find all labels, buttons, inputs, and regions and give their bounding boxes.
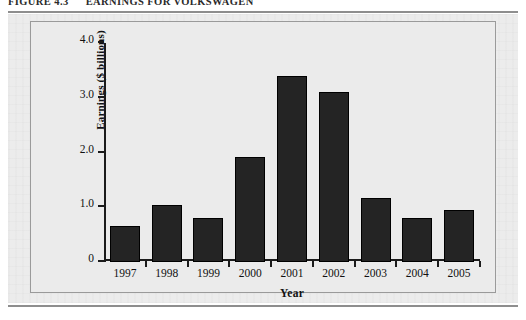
bar xyxy=(193,218,223,262)
y-axis-tick-label: 1.0 xyxy=(80,197,94,209)
plot-area: 01.02.03.04.0 19971998199920002001200220… xyxy=(104,43,479,261)
x-axis-title: Year xyxy=(104,287,480,299)
y-axis-tick-label: 0 xyxy=(88,252,94,264)
bar xyxy=(277,76,307,262)
bar xyxy=(235,157,265,262)
bar xyxy=(361,198,391,262)
x-axis-tick-label: 2001 xyxy=(269,267,315,279)
x-axis-tick-label: 2003 xyxy=(353,267,399,279)
figure-panel: Earnings ($ billions) 01.02.03.04.0 1997… xyxy=(8,14,518,303)
figure-caption: FIGURE 4.3 EARNINGS FOR VOLKSWAGEN xyxy=(8,0,508,10)
figure-caption-number: FIGURE 4.3 xyxy=(8,0,69,7)
x-axis-tick-label: 1999 xyxy=(185,267,231,279)
x-axis-tick-label: 1998 xyxy=(144,267,190,279)
figure-rule-bottom xyxy=(8,305,518,307)
y-axis-tick-label: 4.0 xyxy=(80,33,94,45)
bar xyxy=(152,205,182,262)
y-axis-tick-label: 2.0 xyxy=(80,143,94,155)
bar xyxy=(110,226,140,262)
figure-caption-title: EARNINGS FOR VOLKSWAGEN xyxy=(86,0,254,7)
x-axis-tick-label: 1997 xyxy=(102,267,148,279)
bar xyxy=(444,210,474,262)
bar xyxy=(402,218,432,262)
bar-series xyxy=(104,43,480,262)
x-axis-tick-label: 2004 xyxy=(394,267,440,279)
figure-rule-top xyxy=(8,11,518,13)
x-axis-tick-label: 2005 xyxy=(436,267,482,279)
x-axis-tick-label: 2002 xyxy=(311,267,357,279)
bar xyxy=(319,92,349,262)
bar-chart: Earnings ($ billions) 01.02.03.04.0 1997… xyxy=(30,21,496,293)
x-axis-tick-label: 2000 xyxy=(227,267,273,279)
y-axis-tick-label: 3.0 xyxy=(80,88,94,100)
